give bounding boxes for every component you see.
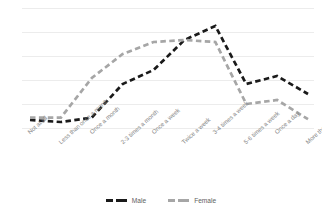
plot-area [22,8,314,128]
legend-entry-male[interactable]: Male [106,197,146,204]
legend-swatch-female [168,197,190,204]
legend-label: Female [194,197,216,204]
series-layer [22,8,314,128]
legend-entry-female[interactable]: Female [168,197,216,204]
series-line-male [30,26,308,122]
legend-swatch-male [106,197,128,204]
x-axis-labels: Not at allLess than once a monthOnce a m… [0,128,322,190]
line-chart: Not at allLess than once a monthOnce a m… [0,0,322,220]
legend-label: Male [132,197,146,204]
legend: MaleFemale [0,197,322,204]
